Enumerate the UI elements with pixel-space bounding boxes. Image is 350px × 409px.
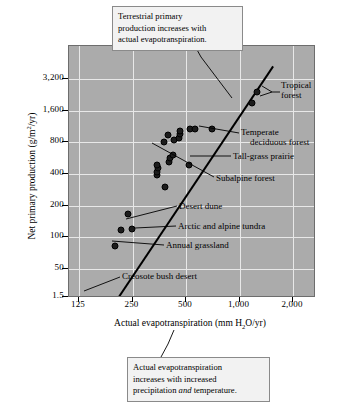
- x-tick-mark: [292, 297, 293, 302]
- y-tick-mark: [62, 78, 68, 79]
- y-tick-mark: [62, 141, 68, 142]
- data-point: [160, 139, 167, 146]
- label-temperate-deciduous-forest-line1: Temperate: [241, 127, 345, 137]
- label-subalpine-forest: Subalpine forest: [216, 173, 275, 183]
- x-tick-mark: [239, 297, 240, 302]
- callout-bottom-line3-pre: precipitation: [133, 385, 179, 395]
- x-tick-mark: [132, 297, 133, 302]
- data-point: [154, 161, 161, 168]
- label-desert-dune: Desert dune: [179, 201, 222, 211]
- label-tropical-forest-line1: Tropical: [281, 80, 345, 90]
- x-axis-title: Actual evapotranspiration (mm H2O/yr): [40, 318, 340, 330]
- callout-top-line3: actual evapotranspiration.: [118, 34, 237, 46]
- data-point: [208, 125, 215, 132]
- x-axis-title-post: O/yr): [245, 318, 266, 328]
- y-tick-mark: [62, 296, 68, 297]
- data-point: [164, 131, 171, 138]
- data-point: [117, 226, 124, 233]
- y-tick-mark: [62, 110, 68, 111]
- figure-container: 3,2001,600800400200100501.5 Net primary …: [0, 0, 350, 409]
- data-point: [177, 128, 184, 135]
- data-point: [128, 226, 135, 233]
- callout-bottom-line3: precipitation and temperature.: [133, 385, 264, 397]
- label-arctic-alpine-tundra: Arctic and alpine tundra: [178, 221, 265, 231]
- data-point: [169, 152, 176, 159]
- label-annual-grassland: Annual grassland: [166, 240, 229, 250]
- y-tick-mark: [62, 268, 68, 269]
- y-axis-title: Net primary production (g/m2/yr): [25, 61, 37, 291]
- plot-area: [68, 45, 315, 297]
- y-axis-title-pre: Net primary production (g/m: [27, 130, 37, 240]
- data-point: [112, 243, 119, 250]
- y-tick-mark: [62, 173, 68, 174]
- data-point: [161, 184, 168, 191]
- callout-top: Terrestrial primary production increases…: [112, 6, 243, 51]
- label-tropical-forest: Tropical forest: [281, 80, 345, 100]
- data-point: [249, 99, 256, 106]
- x-axis-title-pre: Actual evapotranspiration (mm H: [114, 318, 242, 328]
- y-tick-mark: [62, 205, 68, 206]
- label-temperate-deciduous-forest: Temperate deciduous forest: [241, 127, 345, 147]
- y-axis-title-sup: 2: [25, 126, 32, 129]
- leader-callout-bottom: [161, 330, 174, 357]
- callout-bottom-line3-post: temperature.: [191, 385, 236, 395]
- data-point: [253, 89, 260, 96]
- callout-bottom-line2: increases with increased: [133, 374, 264, 386]
- y-tick-mark: [62, 236, 68, 237]
- label-temperate-deciduous-forest-line2: deciduous forest: [241, 137, 345, 147]
- callout-bottom-line1: Actual evapotranspiration: [133, 362, 264, 374]
- label-tropical-forest-line2: forest: [281, 90, 345, 100]
- callout-bottom-line3-em: and: [179, 385, 192, 395]
- y-tick-label: 1,600: [43, 105, 64, 114]
- callout-top-line2: production increases with: [118, 23, 237, 35]
- label-tall-grass-prairie: Tall-grass prairie: [233, 151, 294, 161]
- callout-bottom: Actual evapotranspiration increases with…: [127, 357, 270, 402]
- data-point: [186, 161, 193, 168]
- y-axis-title-post: /yr): [27, 113, 37, 127]
- x-tick-mark: [78, 297, 79, 302]
- data-point: [191, 125, 198, 132]
- x-tick-mark: [185, 297, 186, 302]
- y-tick-label: 3,200: [43, 73, 64, 82]
- label-creosote-bush-desert: Creosote bush desert: [122, 271, 197, 281]
- callout-top-line1: Terrestrial primary: [118, 11, 237, 23]
- data-point: [124, 211, 131, 218]
- trend-line: [69, 46, 314, 296]
